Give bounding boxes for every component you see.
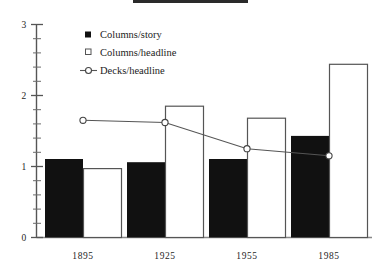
open-circle-icon [86, 68, 92, 74]
y-tick-label-1: 1 [21, 162, 26, 172]
x-tick-label-1955: 1955 [236, 251, 257, 261]
bar-open-1925 [166, 106, 204, 237]
legend-label-columns-per-headline: Columns/headline [100, 47, 177, 58]
legend-item-columns-per-story: Columns/story [85, 29, 163, 40]
bar-line-chart: 3 2 1 0 1895 1925 1955 [0, 0, 380, 274]
line-marker-1895 [80, 117, 86, 123]
bar-open-1985 [330, 64, 368, 237]
bar-filled-1895 [45, 159, 83, 238]
legend-label-decks-per-headline: Decks/headline [100, 65, 165, 76]
line-marker-1985 [326, 153, 332, 159]
y-tick-label-0: 0 [21, 233, 26, 243]
chart-plot-area: 3 2 1 0 1895 1925 1955 [0, 0, 380, 274]
bar-filled-1925 [127, 162, 165, 237]
y-tick-label-2: 2 [21, 91, 26, 101]
line-marker-1925 [162, 119, 168, 125]
legend-item-decks-per-headline: Decks/headline [80, 65, 165, 76]
figure-container: 3 2 1 0 1895 1925 1955 [0, 0, 380, 274]
x-tick-label-1895: 1895 [72, 251, 93, 261]
x-tick-label-1925: 1925 [154, 251, 175, 261]
y-tick-label-3: 3 [21, 20, 26, 30]
bar-open-1955 [248, 118, 286, 237]
bar-filled-1985 [291, 136, 329, 238]
open-square-icon [86, 49, 92, 55]
filled-square-icon [85, 32, 91, 38]
legend-item-columns-per-headline: Columns/headline [86, 47, 177, 58]
bar-open-1895 [84, 169, 122, 238]
chart-legend: Columns/story Columns/headline Decks/hea… [80, 29, 177, 76]
bar-filled-1955 [209, 159, 247, 238]
legend-label-columns-per-story: Columns/story [100, 29, 163, 40]
x-tick-label-1985: 1985 [318, 251, 339, 261]
line-marker-1955 [244, 146, 250, 152]
